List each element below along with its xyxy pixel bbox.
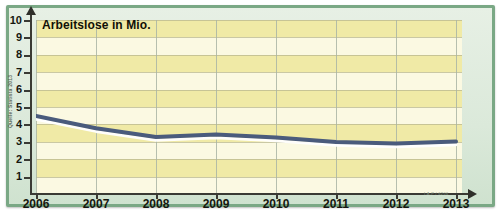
y-axis-tick xyxy=(24,72,31,74)
y-axis-tick xyxy=(24,55,31,57)
y-axis-tick-label: 1 xyxy=(2,171,22,182)
x-axis-tick-label: 2012 xyxy=(374,198,418,211)
y-axis-tick-label: 10 xyxy=(2,15,22,26)
chart-figure: 12345678910 2006200720082009201020112012… xyxy=(0,0,501,213)
x-axis-tick-label: 2006 xyxy=(14,198,58,211)
x-axis-tick-label: 2011 xyxy=(314,198,358,211)
y-axis-tick xyxy=(24,124,31,126)
y-axis-tick-label: 8 xyxy=(2,49,22,60)
x-axis-tick-label: 2008 xyxy=(134,198,178,211)
y-axis-tick-label: 3 xyxy=(2,136,22,147)
y-axis-tick xyxy=(24,37,31,39)
x-axis-tick-label: 2010 xyxy=(254,198,298,211)
y-axis-tick xyxy=(24,20,31,22)
x-axis-tick-label: 2009 xyxy=(194,198,238,211)
y-axis-tick xyxy=(24,159,31,161)
series-line-arbeitslose xyxy=(36,20,462,194)
plot-wrapper xyxy=(30,20,462,194)
x-axis-tick-label: 2013 xyxy=(434,198,478,211)
y-axis-line xyxy=(30,14,32,194)
y-axis-tick xyxy=(24,142,31,144)
y-axis-tick xyxy=(24,177,31,179)
arrow-up-icon xyxy=(26,6,36,15)
y-axis-tick xyxy=(24,90,31,92)
x-axis-tick-label: 2007 xyxy=(74,198,118,211)
credit-note: I.A.P / 6206 xyxy=(424,191,448,196)
source-note: Quelle: Statista 2013 xyxy=(7,75,13,128)
y-axis-tick-label: 9 xyxy=(2,32,22,43)
y-axis-tick xyxy=(24,107,31,109)
chart-title: Arbeitslose in Mio. xyxy=(42,18,151,32)
plot-area xyxy=(36,20,462,194)
y-axis-tick-label: 2 xyxy=(2,154,22,165)
